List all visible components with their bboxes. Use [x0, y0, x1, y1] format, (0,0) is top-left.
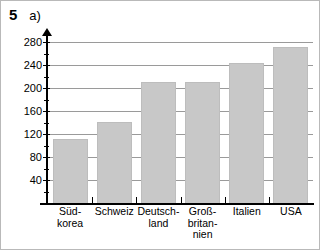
x-tick [225, 197, 226, 204]
x-axis-category-label: Groß- britan- nien [181, 206, 225, 241]
x-axis-category-label: Süd- korea [48, 206, 92, 229]
bar [273, 47, 308, 203]
y-tick-minor [44, 100, 49, 101]
bar [97, 122, 132, 203]
bar [185, 82, 220, 203]
y-tick-minor [44, 54, 49, 55]
y-tick-major [43, 65, 50, 66]
y-tick-minor [44, 77, 49, 78]
y-tick-minor [44, 123, 49, 124]
x-axis-category-label: Schweiz [92, 206, 136, 218]
y-tick-minor [44, 146, 49, 147]
bar [229, 63, 264, 203]
figure-container: 5 a) 4080120160200240280 Süd- koreaSchwe… [0, 0, 320, 250]
x-tick [92, 197, 93, 204]
y-tick-major [43, 180, 50, 181]
y-tick-major [43, 157, 50, 158]
y-tick-major [43, 42, 50, 43]
x-tick [269, 197, 270, 204]
y-tick-major [43, 134, 50, 135]
x-tick [136, 197, 137, 204]
y-tick-major [43, 111, 50, 112]
x-axis-category-label: Deutsch- land [136, 206, 180, 229]
bar [141, 82, 176, 203]
x-tick [181, 197, 182, 204]
x-axis-category-label: Italien [225, 206, 269, 218]
y-tick-minor [44, 169, 49, 170]
bar [53, 139, 88, 203]
y-tick-minor [44, 192, 49, 193]
x-axis-category-label: USA [269, 206, 313, 218]
y-tick-major [43, 88, 50, 89]
